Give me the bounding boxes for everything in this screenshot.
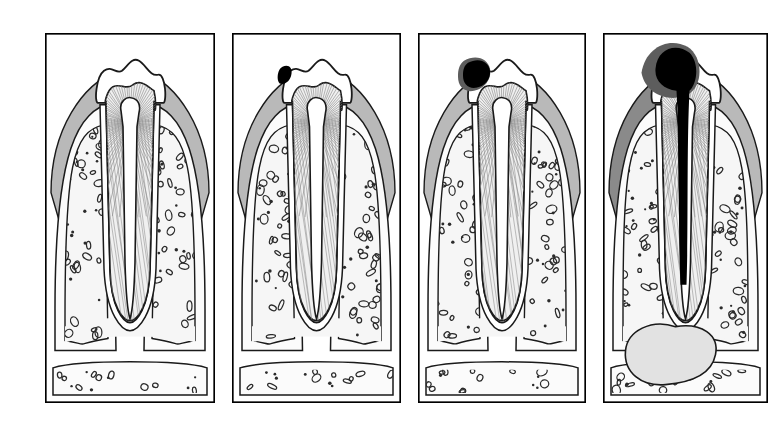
panel-dentin-caries bbox=[418, 33, 586, 403]
basal-cortical-bone bbox=[240, 362, 393, 395]
panel-pulp-caries-with-periapical-abscess bbox=[603, 33, 768, 403]
caries-progression-figure bbox=[0, 0, 771, 430]
basal-cortical-bone bbox=[53, 362, 207, 395]
basal-cortical-bone bbox=[426, 362, 578, 395]
panel-enamel-caries bbox=[232, 33, 401, 403]
panel-healthy-tooth bbox=[45, 33, 215, 403]
